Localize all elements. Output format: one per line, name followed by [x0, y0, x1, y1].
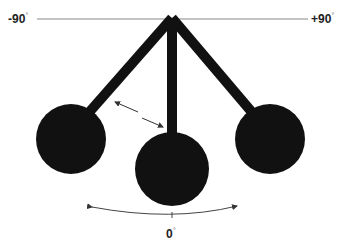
- zero-angle-label: 0°: [166, 227, 176, 241]
- right-angle-label: +90°: [311, 12, 335, 26]
- pendulum-diagram: [0, 0, 353, 251]
- left-pendulum-rod: [85, 18, 172, 117]
- right-pendulum-rod: [172, 18, 256, 117]
- swing-arc: [92, 206, 237, 214]
- left-angle-label: -90°: [8, 12, 29, 26]
- swing-arrow-up-left: [115, 102, 138, 112]
- center-pendulum-bob: [135, 132, 209, 206]
- right-pendulum-bob: [235, 104, 305, 174]
- left-pendulum-bob: [36, 104, 106, 174]
- swing-arrow-down-right: [142, 118, 163, 127]
